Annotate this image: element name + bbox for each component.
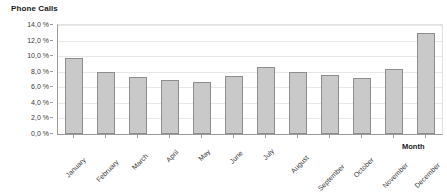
x-tick-label: June (240, 140, 256, 156)
bar (353, 78, 371, 134)
y-tick-label: 12,0 % (27, 36, 49, 43)
x-tick-label: March (146, 140, 165, 159)
y-tick-label: 2,0 % (31, 114, 49, 121)
plot-area (57, 24, 443, 135)
x-tick-label-text: July (261, 147, 275, 161)
y-tick-label: 4,0 % (31, 98, 49, 105)
x-tick-mark (137, 135, 138, 138)
y-tick-label: 10,0 % (27, 52, 49, 59)
x-tick-mark (233, 135, 234, 138)
y-tick-mark (50, 102, 53, 103)
bar (193, 82, 211, 134)
bars-layer (58, 25, 442, 134)
x-tick-mark (169, 135, 170, 138)
x-tick-label: October (371, 140, 394, 163)
bar (385, 69, 403, 134)
y-tick-mark (50, 86, 53, 87)
x-tick-mark (265, 135, 266, 138)
x-tick-label: May (208, 140, 222, 154)
x-axis: JanuaryFebruaryMarchAprilMayJuneJulyAugu… (57, 135, 443, 192)
y-tick-label: 14,0 % (27, 21, 49, 28)
y-axis: 0,0 %2,0 %4,0 %6,0 %8,0 %10,0 %12,0 %14,… (0, 24, 53, 135)
x-tick-mark (393, 135, 394, 138)
x-tick-label-text: August (290, 154, 310, 174)
bar (321, 75, 339, 134)
x-tick-mark (425, 135, 426, 138)
x-tick-label-text: June (228, 149, 244, 165)
x-tick-label-text: September (316, 163, 345, 192)
x-tick-label: December (437, 140, 447, 168)
bar (65, 58, 83, 134)
y-tick-label: 8,0 % (31, 67, 49, 74)
bar (225, 76, 243, 134)
x-tick-label-text: December (413, 161, 441, 189)
x-axis-title: Month (402, 142, 425, 151)
x-tick-label-text: March (131, 152, 150, 171)
bar (289, 72, 307, 134)
bar (97, 72, 115, 134)
x-tick-label: April (176, 140, 191, 155)
bar (257, 67, 275, 134)
y-tick-label: 0,0 % (31, 130, 49, 137)
x-tick-label: January (83, 140, 106, 163)
y-tick-mark (50, 71, 53, 72)
bar (161, 80, 179, 135)
x-tick-mark (329, 135, 330, 138)
x-tick-label-text: April (165, 148, 180, 163)
y-tick-mark (50, 117, 53, 118)
bar (417, 33, 435, 134)
x-tick-label: July (272, 140, 286, 154)
bar-chart: Phone Calls 0,0 %2,0 %4,0 %6,0 %8,0 %10,… (0, 0, 447, 192)
y-tick-mark (50, 24, 53, 25)
y-tick-mark (50, 40, 53, 41)
x-tick-label-text: May (197, 148, 211, 162)
x-tick-mark (361, 135, 362, 138)
x-tick-label: August (306, 140, 326, 160)
x-tick-mark (201, 135, 202, 138)
x-tick-mark (73, 135, 74, 138)
x-tick-label-text: February (95, 158, 120, 183)
x-tick-mark (297, 135, 298, 138)
y-tick-mark (50, 133, 53, 134)
x-tick-label-text: November (381, 161, 409, 189)
bar (129, 77, 147, 134)
y-tick-label: 6,0 % (31, 83, 49, 90)
x-tick-mark (105, 135, 106, 138)
y-tick-mark (50, 55, 53, 56)
chart-title: Phone Calls (11, 4, 58, 13)
x-tick-label-text: January (64, 156, 87, 179)
